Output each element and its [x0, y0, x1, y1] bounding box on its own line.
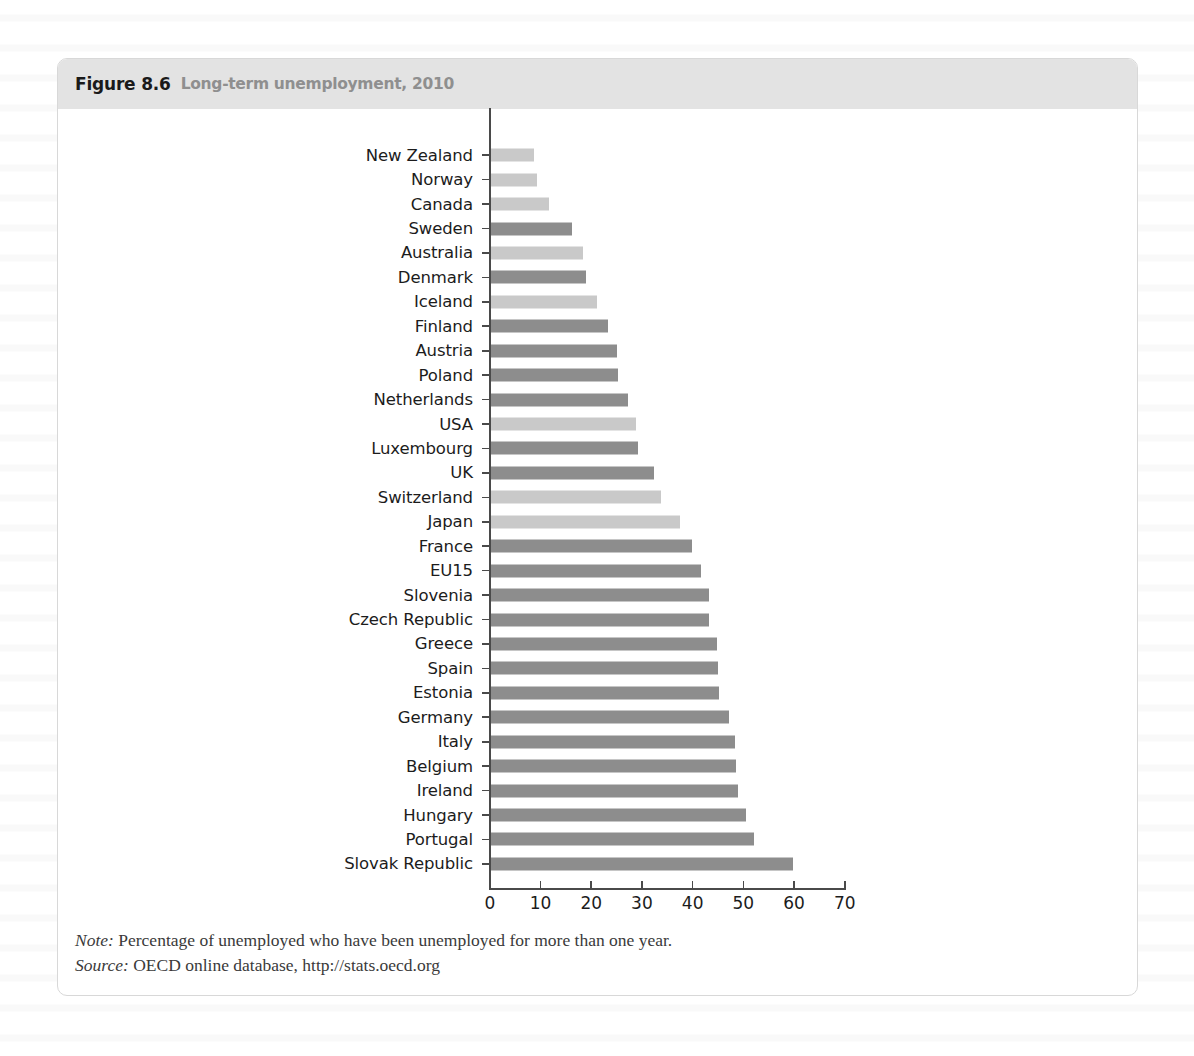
bar-category-label: Iceland	[58, 292, 482, 311]
bar-row: Japan	[58, 510, 1137, 534]
bar	[489, 564, 701, 577]
bar-row: Hungary	[58, 803, 1137, 827]
y-axis-tick	[482, 521, 489, 523]
bar-category-label: USA	[58, 415, 482, 434]
y-axis-tick	[482, 545, 489, 547]
bar	[489, 344, 617, 357]
bar	[489, 784, 738, 797]
y-axis-tick	[482, 814, 489, 816]
bar-track	[489, 485, 1137, 509]
bar-row: Estonia	[58, 681, 1137, 705]
bar-track	[489, 339, 1137, 363]
bar-row: Spain	[58, 656, 1137, 680]
note-line: Note: Percentage of unemployed who have …	[75, 928, 1120, 953]
y-axis-tick	[482, 203, 489, 205]
bar	[489, 613, 709, 626]
bar	[489, 809, 746, 822]
x-axis-tick-label: 0	[484, 893, 495, 913]
y-axis-tick	[482, 619, 489, 621]
bar-category-label: Australia	[58, 243, 482, 262]
y-axis-tick	[482, 716, 489, 718]
bar-track	[489, 290, 1137, 314]
bar	[489, 662, 718, 675]
bar-row: Norway	[58, 167, 1137, 191]
bar	[489, 393, 628, 406]
bar-category-label: Hungary	[58, 806, 482, 825]
bar-row: Sweden	[58, 216, 1137, 240]
y-axis-tick	[482, 692, 489, 694]
bar-category-label: Spain	[58, 659, 482, 678]
bar-category-label: Belgium	[58, 757, 482, 776]
bar-track	[489, 510, 1137, 534]
y-axis-tick	[482, 765, 489, 767]
note-label: Note:	[75, 930, 114, 950]
bar	[489, 369, 618, 382]
bar-row: USA	[58, 412, 1137, 436]
bar	[489, 271, 586, 284]
bar-category-label: Sweden	[58, 219, 482, 238]
bar-track	[489, 754, 1137, 778]
bar-track	[489, 265, 1137, 289]
bar	[489, 711, 729, 724]
bar-category-label: Norway	[58, 170, 482, 189]
bar-row: Iceland	[58, 290, 1137, 314]
y-axis-tick	[482, 448, 489, 450]
bar-category-label: Denmark	[58, 268, 482, 287]
bar-category-label: Italy	[58, 732, 482, 751]
bar-track	[489, 778, 1137, 802]
bar-row: Portugal	[58, 827, 1137, 851]
x-axis-tick-label: 10	[530, 893, 552, 913]
bar-track	[489, 143, 1137, 167]
bar-row: UK	[58, 461, 1137, 485]
y-axis-tick	[482, 472, 489, 474]
bar-row: Luxembourg	[58, 436, 1137, 460]
y-axis-tick	[482, 570, 489, 572]
bar	[489, 589, 709, 602]
bar-track	[489, 436, 1137, 460]
bar-track	[489, 827, 1137, 851]
bar	[489, 735, 735, 748]
figure-title: Long-term unemployment, 2010	[181, 75, 454, 93]
bar-category-label: UK	[58, 463, 482, 482]
bar	[489, 149, 534, 162]
bar	[489, 320, 608, 333]
y-axis-tick	[482, 350, 489, 352]
bar-category-label: New Zealand	[58, 146, 482, 165]
bar-category-label: Slovenia	[58, 586, 482, 605]
bar-category-label: Slovak Republic	[58, 854, 482, 873]
bar	[489, 246, 583, 259]
x-axis-tick-label: 20	[580, 893, 602, 913]
bar-track	[489, 632, 1137, 656]
bar	[489, 857, 793, 870]
bar-track	[489, 803, 1137, 827]
bar-category-label: Japan	[58, 512, 482, 531]
bar-track	[489, 216, 1137, 240]
bar-row: EU15	[58, 558, 1137, 582]
y-axis-spine	[489, 108, 491, 890]
bar	[489, 295, 597, 308]
y-axis-tick	[482, 423, 489, 425]
bar-track	[489, 534, 1137, 558]
bar-row: Australia	[58, 241, 1137, 265]
figure-number: Figure 8.6	[75, 74, 171, 94]
y-axis-tick	[482, 594, 489, 596]
bar-track	[489, 387, 1137, 411]
bar-track	[489, 167, 1137, 191]
bar-category-label: Austria	[58, 341, 482, 360]
bar-track	[489, 583, 1137, 607]
bar-track	[489, 607, 1137, 631]
bar	[489, 637, 717, 650]
x-axis-tick	[692, 881, 694, 888]
bar-row: Poland	[58, 363, 1137, 387]
x-axis-tick-label: 70	[834, 893, 856, 913]
bar-row: Austria	[58, 339, 1137, 363]
bar	[489, 515, 680, 528]
y-axis-tick	[482, 154, 489, 156]
figure-panel: Figure 8.6 Long-term unemployment, 2010 …	[57, 58, 1138, 996]
x-axis-tick	[844, 881, 846, 888]
bar-track	[489, 314, 1137, 338]
bar-track	[489, 705, 1137, 729]
x-axis-tick-label: 60	[783, 893, 805, 913]
x-axis-tick	[743, 881, 745, 888]
bar-category-label: Greece	[58, 634, 482, 653]
